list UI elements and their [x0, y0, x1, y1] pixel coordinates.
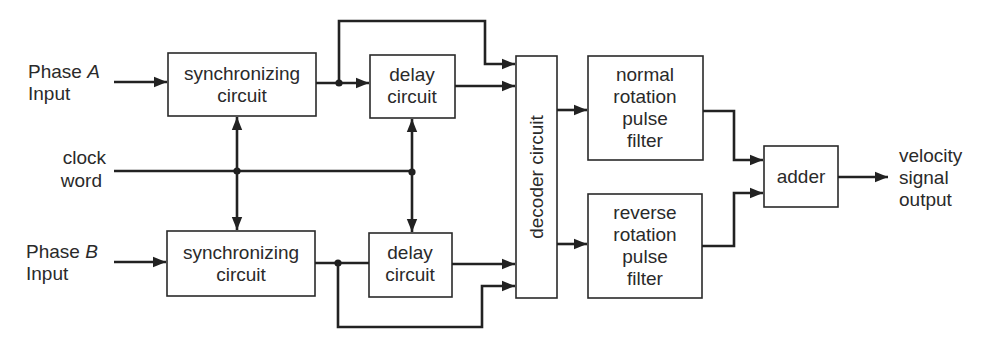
adder-block: adder — [764, 146, 838, 207]
svg-text:circuit: circuit — [217, 85, 267, 106]
svg-text:clock: clock — [63, 147, 107, 168]
sync-circuit-a-block: synchronizing circuit — [168, 53, 316, 116]
svg-text:adder: adder — [777, 166, 826, 187]
svg-text:pulse: pulse — [622, 246, 667, 267]
svg-text:pulse: pulse — [622, 108, 667, 129]
reverse-filter-to-adder-arrow — [702, 193, 763, 246]
svg-text:Input: Input — [28, 83, 71, 104]
svg-text:synchronizing: synchronizing — [184, 63, 300, 84]
svg-text:signal: signal — [899, 167, 949, 188]
svg-text:circuit: circuit — [387, 86, 437, 107]
svg-text:Phase A: Phase A — [28, 61, 100, 82]
svg-text:reverse: reverse — [613, 202, 676, 223]
svg-text:word: word — [60, 170, 102, 191]
sync-circuit-b-block: synchronizing circuit — [167, 231, 315, 296]
reverse-rotation-pulse-filter-block: reverse rotation pulse filter — [588, 194, 702, 298]
svg-text:velocity: velocity — [899, 145, 963, 166]
normal-filter-to-adder-arrow — [703, 111, 763, 160]
delay-circuit-b-block: delay circuit — [369, 233, 452, 297]
svg-text:decoder circuit: decoder circuit — [526, 115, 547, 239]
svg-text:Input: Input — [26, 263, 69, 284]
svg-text:circuit: circuit — [385, 264, 435, 285]
svg-text:filter: filter — [627, 268, 664, 289]
svg-text:delay: delay — [387, 242, 433, 263]
block-diagram: Phase A Input clock word Phase B Input s… — [0, 0, 998, 349]
clock-word-label: clock word — [60, 147, 107, 191]
phase-b-input-label: Phase B Input — [26, 241, 98, 284]
delay-circuit-a-block: delay circuit — [370, 55, 455, 118]
junction-dot — [335, 79, 342, 86]
phase-a-input-label: Phase A Input — [28, 61, 100, 104]
svg-text:rotation: rotation — [613, 86, 676, 107]
decoder-circuit-block: decoder circuit — [516, 56, 557, 298]
svg-text:filter: filter — [627, 130, 664, 151]
svg-text:delay: delay — [389, 64, 435, 85]
normal-rotation-pulse-filter-block: normal rotation pulse filter — [588, 56, 703, 160]
svg-text:synchronizing: synchronizing — [183, 242, 299, 263]
svg-text:normal: normal — [616, 64, 674, 85]
svg-text:output: output — [899, 189, 953, 210]
svg-text:rotation: rotation — [613, 224, 676, 245]
svg-text:Phase B: Phase B — [26, 241, 98, 262]
velocity-signal-output-label: velocity signal output — [899, 145, 963, 210]
svg-text:circuit: circuit — [216, 264, 266, 285]
